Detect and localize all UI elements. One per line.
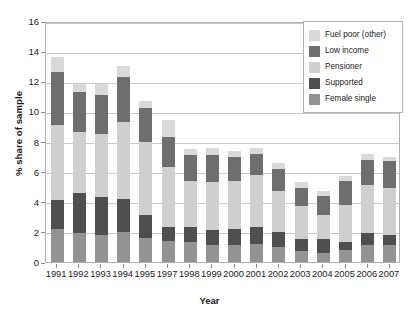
x-axis-tick-mark [300, 264, 301, 268]
legend-item-label: Supported [325, 79, 363, 87]
x-axis-tick-mark [145, 264, 146, 268]
y-axis-tick-label: 0 [3, 258, 39, 268]
bar-segment [73, 84, 86, 92]
y-axis-tick-label: 12 [3, 77, 39, 87]
bar-segment [73, 233, 86, 262]
bar-segment [162, 241, 175, 262]
bar-segment [272, 163, 285, 169]
bar-segment [361, 245, 374, 262]
legend-item-4: Female single [309, 91, 398, 107]
y-axis-tick-mark [41, 52, 45, 53]
bar-segment [339, 181, 352, 205]
bar-segment [51, 229, 64, 262]
y-axis-tick-mark [41, 263, 45, 264]
bar-segment [95, 84, 108, 95]
bar-segment [139, 142, 152, 216]
y-axis-tick-mark [41, 202, 45, 203]
bar-segment [339, 176, 352, 181]
y-axis-tick-mark [41, 22, 45, 23]
bar-segment [51, 200, 64, 229]
y-axis-tick-label: 16 [3, 17, 39, 27]
bar-segment [361, 233, 374, 245]
bar-segment [250, 154, 263, 175]
bar-1997 [162, 21, 175, 262]
bar-segment [206, 155, 219, 182]
bar-segment [228, 229, 241, 246]
stacked-bar-chart: % share of sample 0246810121416 19911992… [0, 0, 419, 317]
bar-segment [361, 154, 374, 160]
legend-item-label: Pensioner [325, 63, 362, 71]
bar-segment [339, 242, 352, 250]
x-axis-tick-mark [345, 264, 346, 268]
bar-segment [250, 244, 263, 262]
bar-segment [184, 181, 197, 228]
x-axis-tick-mark [256, 264, 257, 268]
legend-swatch-icon [309, 94, 320, 105]
bar-1995 [139, 21, 152, 262]
bar-segment [95, 197, 108, 235]
legend: Fuel poor (other)Low incomePensionerSupp… [303, 21, 403, 113]
bar-segment [139, 108, 152, 141]
x-axis-tick-mark [56, 264, 57, 268]
bar-segment [295, 251, 308, 262]
x-axis-tick-mark [278, 264, 279, 268]
y-axis-tick-label: 10 [3, 107, 39, 117]
bar-segment [184, 149, 197, 155]
bar-segment [95, 95, 108, 134]
bar-segment [228, 157, 241, 181]
bar-segment [162, 167, 175, 227]
bar-segment [228, 245, 241, 262]
bar-segment [117, 77, 130, 122]
bar-segment [317, 191, 330, 196]
bar-segment [162, 137, 175, 167]
x-axis-tick-mark [322, 264, 323, 268]
bar-segment [383, 188, 396, 235]
bar-segment [272, 191, 285, 232]
bar-2002 [272, 21, 285, 262]
bar-segment [295, 206, 308, 239]
bar-segment [162, 227, 175, 241]
bar-segment [339, 250, 352, 262]
y-axis-tick-mark [41, 232, 45, 233]
x-axis-tick-mark [100, 264, 101, 268]
y-axis-tick-label: 6 [3, 168, 39, 178]
bar-segment [361, 185, 374, 233]
bar-segment [383, 157, 396, 162]
bar-segment [51, 125, 64, 200]
bar-segment [73, 92, 86, 133]
bar-segment [272, 232, 285, 247]
bar-segment [295, 188, 308, 206]
bar-segment [117, 199, 130, 232]
bar-segment [228, 151, 241, 157]
x-axis-tick-mark [211, 264, 212, 268]
bar-segment [250, 148, 263, 154]
bar-segment [317, 215, 330, 239]
bar-segment [228, 181, 241, 229]
bar-2000 [228, 21, 241, 262]
legend-swatch-icon [309, 30, 320, 41]
legend-item-label: Fuel poor (other) [325, 31, 386, 39]
bar-segment [250, 227, 263, 244]
x-axis-tick-mark [389, 264, 390, 268]
bar-1994 [117, 21, 130, 262]
bar-1998 [184, 21, 197, 262]
bar-segment [272, 247, 285, 262]
x-axis-title: Year [0, 295, 419, 306]
bar-segment [317, 196, 330, 216]
y-axis-tick-mark [41, 112, 45, 113]
bar-segment [73, 193, 86, 234]
x-axis-tick-mark [189, 264, 190, 268]
bar-segment [383, 235, 396, 246]
bar-segment [51, 57, 64, 72]
bar-segment [361, 160, 374, 186]
y-axis-tick-mark [41, 142, 45, 143]
bar-segment [295, 239, 308, 251]
bar-segment [139, 238, 152, 262]
bar-segment [95, 134, 108, 197]
bar-segment [339, 205, 352, 243]
bar-segment [206, 182, 219, 230]
x-axis-tick-mark [367, 264, 368, 268]
bar-segment [184, 227, 197, 242]
bar-1999 [206, 21, 219, 262]
bar-segment [51, 72, 64, 125]
